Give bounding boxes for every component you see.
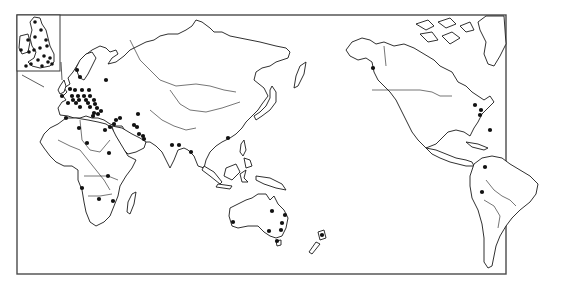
location-dot-europe — [104, 78, 108, 82]
landmasses — [40, 16, 538, 268]
location-dot-australia — [231, 220, 235, 224]
location-dot-south-america — [483, 165, 487, 169]
location-dot-europe — [99, 109, 103, 113]
location-dot-europe — [77, 98, 81, 102]
madagascar-landmass — [127, 192, 136, 214]
sumatra-landmass — [202, 166, 222, 184]
south-america-landmass — [470, 156, 538, 268]
location-dot-inset — [33, 20, 37, 24]
location-dot-inset — [50, 62, 54, 66]
location-dot-africa — [80, 186, 84, 190]
location-dot-africa — [77, 126, 81, 130]
location-dot-inset — [46, 60, 50, 64]
inset-leader-line — [22, 75, 44, 87]
location-dot-inset — [24, 64, 28, 68]
location-dot-inset — [27, 50, 31, 54]
location-dot-south-america — [480, 190, 484, 194]
arctic-islands-landmass — [416, 18, 474, 44]
location-dot-inset — [48, 56, 52, 60]
location-dot-middle-east — [118, 116, 122, 120]
kamchatka-landmass — [294, 62, 306, 88]
location-dot-africa — [85, 141, 89, 145]
location-dot-inset — [38, 46, 42, 50]
location-dot-inset — [36, 58, 40, 62]
location-dot-middle-east — [136, 112, 140, 116]
location-dot-europe — [93, 102, 97, 106]
location-dot-australia — [267, 229, 271, 233]
location-dot-europe — [74, 101, 78, 105]
location-dot-europe — [92, 98, 96, 102]
location-dot-europe — [75, 68, 79, 72]
location-dot-middle-east — [112, 122, 116, 126]
location-dot-inset — [32, 48, 36, 52]
location-dot-north-america — [479, 108, 483, 112]
location-dot-middle-east — [103, 128, 107, 132]
great-britain-landmass — [58, 80, 66, 94]
java-landmass — [216, 184, 232, 189]
world-map-svg — [0, 0, 563, 284]
location-dot-north-america — [478, 113, 482, 117]
location-dot-inset — [26, 38, 30, 42]
location-dot-south-asia — [170, 143, 174, 147]
location-dot-europe — [73, 88, 77, 92]
location-dot-europe — [60, 94, 64, 98]
location-dot-inset — [19, 48, 23, 52]
british-isles-inset — [17, 15, 62, 87]
location-dot-east-asia — [226, 136, 230, 140]
location-dot-europe — [96, 112, 100, 116]
cuba-landmass — [466, 142, 488, 150]
location-dot-europe — [88, 94, 92, 98]
location-dot-middle-east — [135, 125, 139, 129]
location-dot-middle-east — [108, 125, 112, 129]
location-dot-africa — [106, 174, 110, 178]
location-dot-new-zealand — [320, 233, 324, 237]
location-dot-south-asia — [177, 143, 181, 147]
location-dot-europe — [70, 94, 74, 98]
location-dot-europe — [78, 105, 82, 109]
location-dot-europe — [88, 105, 92, 109]
location-dot-europe — [80, 88, 84, 92]
location-dot-north-america — [488, 128, 492, 132]
australia-landmass — [229, 194, 288, 238]
new-guinea-landmass — [256, 176, 286, 190]
location-dot-europe — [82, 94, 86, 98]
location-dot-europe — [66, 101, 70, 105]
location-dot-inset — [33, 35, 37, 39]
location-dot-australia — [270, 209, 274, 213]
location-dot-europe — [64, 116, 68, 120]
central-america-landmass — [426, 148, 474, 166]
sulawesi-landmass — [240, 170, 248, 182]
location-dot-europe — [87, 88, 91, 92]
location-dot-inset — [39, 28, 43, 32]
location-dot-australia — [283, 213, 287, 217]
location-dot-europe — [76, 94, 80, 98]
philippines-landmass — [240, 140, 252, 168]
location-dot-europe — [71, 98, 75, 102]
location-dot-south-asia — [189, 150, 193, 154]
location-dot-north-america — [371, 66, 375, 70]
location-dot-africa — [107, 151, 111, 155]
location-dot-north-america — [473, 103, 477, 107]
location-dot-europe — [86, 101, 90, 105]
location-dot-australia — [280, 221, 284, 225]
world-map-figure — [0, 0, 563, 284]
location-dot-europe — [68, 87, 72, 91]
location-dot-australia — [275, 239, 279, 243]
location-dot-inset — [29, 62, 33, 66]
location-dot-inset — [40, 64, 44, 68]
location-dot-europe — [78, 75, 82, 79]
location-dot-middle-east — [142, 137, 146, 141]
borneo-landmass — [224, 164, 240, 180]
greenland-landmass — [478, 16, 506, 66]
north-america-landmass — [346, 38, 494, 148]
location-dot-inset — [42, 54, 46, 58]
location-dot-middle-east — [114, 118, 118, 122]
location-dot-europe — [95, 106, 99, 110]
location-dot-europe — [91, 114, 95, 118]
location-dot-inset — [44, 38, 48, 42]
location-dot-africa — [97, 197, 101, 201]
location-dot-africa — [111, 199, 115, 203]
location-dot-inset — [45, 44, 49, 48]
inset-leader-line — [61, 62, 62, 80]
location-dot-middle-east — [137, 132, 141, 136]
